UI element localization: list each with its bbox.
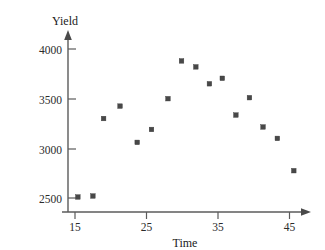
data-point (149, 127, 154, 132)
data-point (194, 65, 199, 70)
x-axis-arrow-icon (301, 208, 311, 216)
data-point-series (76, 59, 297, 200)
data-point (135, 140, 140, 145)
x-tick-label-35: 35 (212, 221, 224, 233)
chart-figure: 4000 3500 3000 2500 15 25 35 45 Yield Ti… (0, 0, 325, 250)
data-point (166, 96, 171, 101)
data-point (291, 168, 296, 173)
x-axis-ticks (75, 212, 290, 219)
x-tick-label-25: 25 (141, 221, 153, 233)
x-tick-label-15: 15 (69, 221, 81, 233)
y-axis-arrow-icon (64, 30, 72, 40)
data-point (275, 136, 280, 141)
y-tick-label-2500: 2500 (39, 193, 62, 205)
x-tick-label-45: 45 (284, 221, 296, 233)
data-point (247, 95, 252, 100)
y-tick-label-3000: 3000 (39, 144, 62, 156)
y-axis-ticks (68, 49, 76, 198)
data-point (179, 59, 184, 64)
y-axis-title: Yield (52, 14, 78, 28)
data-point (234, 113, 239, 118)
data-point (118, 104, 123, 109)
data-point (101, 116, 106, 121)
data-point (261, 125, 266, 130)
scatter-plot-canvas: 4000 3500 3000 2500 15 25 35 45 Yield Ti… (0, 0, 325, 250)
data-point (76, 195, 81, 200)
data-point (220, 76, 225, 81)
y-tick-label-4000: 4000 (39, 44, 62, 56)
x-axis-title: Time (173, 236, 198, 250)
data-point (91, 194, 96, 199)
y-tick-label-3500: 3500 (39, 94, 62, 106)
data-point (207, 81, 212, 86)
